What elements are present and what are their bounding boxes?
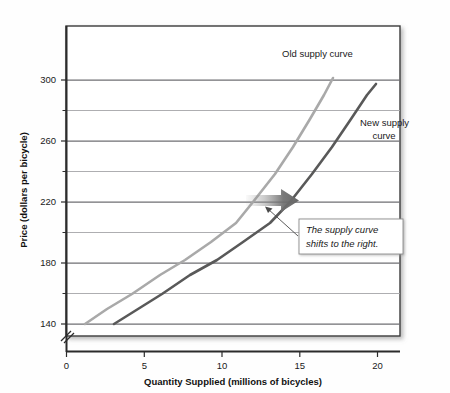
x-tick-label-20: 20 [372,360,383,371]
x-tick-label-15: 15 [295,360,306,371]
new-supply-curve-label-line2: curve [372,130,395,141]
y-tick-marks [61,80,66,324]
y-axis-title: Price (dollars per bicycle) [18,132,29,248]
y-tick-label-180: 180 [40,257,56,268]
supply-shift-chart: 300 260 220 180 140 0 5 10 15 20 Quantit… [0,0,450,393]
plot-border [66,26,400,336]
y-tick-label-260: 260 [40,135,56,146]
supply-curve-figure: 300 260 220 180 140 0 5 10 15 20 Quantit… [0,0,450,393]
annotation-line-2: shifts to the right. [306,238,378,249]
x-tick-label-0: 0 [64,360,69,371]
y-tick-label-140: 140 [40,318,56,329]
annotation-line-1: The supply curve [306,224,378,235]
new-supply-curve-label-line1: New supply [360,117,409,128]
plot-area [66,26,400,336]
x-tick-marks [67,352,378,357]
y-tick-label-220: 220 [40,196,56,207]
x-tick-label-10: 10 [217,360,228,371]
y-tick-label-300: 300 [40,74,56,85]
x-axis-title: Quantity Supplied (millions of bicycles) [144,376,322,387]
old-supply-curve-label: Old supply curve [282,48,353,59]
x-tick-label-5: 5 [142,360,147,371]
shift-annotation-box: The supply curve shifts to the right. [299,219,403,254]
